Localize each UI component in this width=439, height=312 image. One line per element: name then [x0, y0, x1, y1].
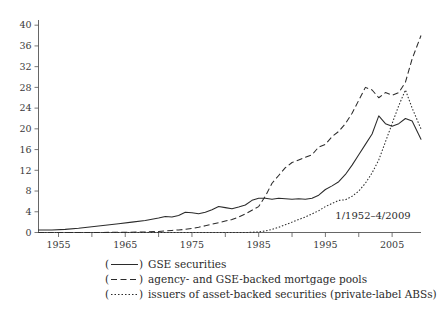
legend-paren-close-2: ): [139, 288, 143, 300]
y-tick-label: 8: [25, 185, 31, 196]
y-tick-label: 16: [19, 144, 31, 155]
legend-paren-open-2: (: [105, 288, 109, 300]
y-tick-label: 24: [19, 102, 31, 113]
y-tick-label: 4: [25, 206, 31, 217]
x-tick-label: 2005: [380, 239, 404, 250]
x-tick-label: 1995: [313, 239, 337, 250]
legend-paren-open-0: (: [105, 258, 109, 270]
chart-figure: 0481216202428323640 19551965197519851995…: [0, 0, 439, 312]
y-tick-label: 28: [19, 82, 31, 93]
legend-label-agency-gse-mortgage-pools: agency- and GSE-backed mortgage pools: [148, 273, 367, 285]
x-tick-label: 1965: [113, 239, 137, 250]
legend-label-gse-securities: GSE securities: [148, 258, 226, 270]
x-tick-label: 1955: [46, 239, 70, 250]
date-range-annotation: 1/1952–4/2009: [335, 210, 410, 221]
y-tick-label: 20: [19, 123, 31, 134]
legend-paren-close-0: ): [139, 258, 143, 270]
legend-label-abs-issuers: issuers of asset-backed securities (priv…: [148, 288, 437, 300]
x-tick-label: 1975: [180, 239, 204, 250]
legend-paren-open-1: (: [105, 273, 109, 285]
line-chart: 0481216202428323640 19551965197519851995…: [0, 0, 439, 312]
y-tick-label: 40: [19, 19, 31, 30]
y-tick-label: 0: [25, 227, 31, 238]
y-tick-label: 36: [19, 40, 31, 51]
legend-paren-close-1: ): [139, 273, 143, 285]
legend-row-abs-issuers: ( ) issuers of asset-backed securities (…: [105, 288, 437, 300]
y-tick-label: 32: [19, 61, 31, 72]
x-tick-label: 1985: [247, 239, 271, 250]
y-tick-label: 12: [19, 165, 31, 176]
